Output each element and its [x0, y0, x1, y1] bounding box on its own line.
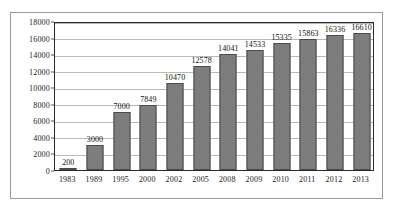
bar-slot: 200 [55, 23, 82, 170]
bar[interactable] [326, 35, 343, 170]
bar-value-label: 7000 [113, 102, 129, 111]
bar-value-label: 15863 [298, 29, 319, 38]
x-axis-tick-label: 2013 [352, 175, 369, 184]
bar[interactable] [273, 43, 290, 170]
bar-value-label: 16336 [325, 25, 346, 34]
y-axis-tick-label: 12000 [29, 67, 50, 76]
y-axis-tick-label: 4000 [33, 133, 50, 142]
bar-slot: 14041 [215, 23, 242, 170]
bar-slot: 7000 [108, 23, 135, 170]
y-axis-tick-label: 10000 [29, 84, 50, 93]
bar-slot: 7849 [135, 23, 162, 170]
bar-value-label: 14041 [218, 44, 239, 53]
chart-card: 0200040006000800010000120001400016000180… [10, 12, 383, 199]
bar-value-label: 16610 [351, 23, 372, 32]
bar[interactable] [353, 33, 370, 170]
bar-slot: 14533 [242, 23, 269, 170]
x-axis-tick-label: 1995 [112, 175, 129, 184]
bar-slot: 3000 [82, 23, 109, 170]
x-axis-tick-label: 1983 [59, 175, 76, 184]
bar[interactable] [300, 39, 317, 170]
bar-value-label: 10470 [165, 73, 186, 82]
bar-slot: 15335 [268, 23, 295, 170]
y-axis-tick-label: 16000 [29, 34, 50, 43]
x-axis-tick-label: 2011 [299, 175, 316, 184]
y-axis: 0200040006000800010000120001400016000180… [11, 13, 54, 198]
y-axis-tick-label: 6000 [33, 117, 50, 126]
bar[interactable] [246, 50, 263, 170]
x-axis-tick-label: 2005 [192, 175, 209, 184]
x-axis-tick-label: 2010 [272, 175, 289, 184]
x-axis-tick-label: 2008 [219, 175, 236, 184]
bar-slot: 10470 [162, 23, 189, 170]
bar-slot: 15863 [295, 23, 322, 170]
x-axis-tick-label: 2000 [139, 175, 156, 184]
y-axis-tick-label: 14000 [29, 51, 50, 60]
bar[interactable] [193, 66, 210, 170]
bar-value-label: 200 [62, 158, 74, 167]
bar-value-label: 14533 [245, 40, 266, 49]
bar-value-label: 3000 [87, 135, 103, 144]
x-axis-tick-label: 2002 [166, 175, 183, 184]
x-axis-tick-label: 1989 [86, 175, 103, 184]
y-axis-tick-label: 0 [46, 167, 50, 176]
bar[interactable] [220, 54, 237, 170]
bar[interactable] [113, 112, 130, 170]
bar-value-label: 15335 [271, 33, 292, 42]
bar[interactable] [60, 168, 77, 170]
y-axis-tick-label: 8000 [33, 100, 50, 109]
bar[interactable] [166, 83, 183, 170]
bar-value-label: 7849 [140, 95, 156, 104]
bar-value-label: 12578 [191, 56, 212, 65]
x-axis: 1983198919952000200220052008200920102011… [54, 175, 374, 191]
bar[interactable] [140, 105, 157, 170]
bar-slot: 16610 [348, 23, 375, 170]
x-axis-tick-label: 2012 [326, 175, 343, 184]
x-axis-tick-label: 2009 [246, 175, 263, 184]
y-axis-tick-label: 18000 [29, 18, 50, 27]
bar[interactable] [86, 145, 103, 170]
bar-slot: 12578 [188, 23, 215, 170]
bar-slot: 16336 [322, 23, 349, 170]
plot-area: 2003000700078491047012578140411453315335… [54, 22, 374, 171]
y-axis-tick-label: 2000 [33, 150, 50, 159]
